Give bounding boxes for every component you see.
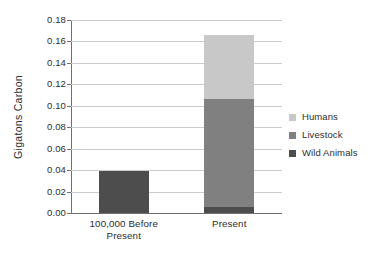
x-axis-category-labels: 100,000 BeforePresentPresent [71,218,282,252]
legend-swatch-icon [289,114,296,121]
bar-stack [204,20,254,213]
y-axis-tick-label: 0.04 [38,165,66,175]
y-axis-tick [67,41,71,42]
y-axis-tick-label: 0.08 [38,122,66,132]
bar-stack [99,20,149,213]
plot-area [71,20,282,214]
y-axis-tick [67,127,71,128]
legend-swatch-icon [289,132,296,139]
y-axis-tick-label: 0.00 [38,208,66,218]
x-axis-category-label: 100,000 BeforePresent [71,218,177,241]
y-axis-tick-label: 0.14 [38,58,66,68]
stacked-bar-chart: Gigatons Carbon 0.000.020.040.060.080.10… [0,0,370,270]
y-axis-tick-label: 0.06 [38,144,66,154]
y-axis-title-text: Gigatons Carbon [12,75,24,159]
x-axis-category-label-line: 100,000 Before [71,218,177,230]
x-axis-category-label: Present [177,218,283,230]
y-axis-tick-label: 0.02 [38,187,66,197]
y-axis-tick-label: 0.12 [38,79,66,89]
legend-item: Humans [289,110,338,124]
y-axis-line [71,20,72,214]
bar-segment-wild-animals [99,171,149,213]
y-axis-tick [67,84,71,85]
legend-swatch-icon [289,150,296,157]
y-axis-tick [67,20,71,21]
y-axis-tick [67,170,71,171]
x-axis-category-label-line: Present [177,218,283,230]
legend-label: Humans [302,112,338,122]
y-axis-tick-labels: 0.000.020.040.060.080.100.120.140.160.18 [36,20,66,214]
y-axis-tick [67,106,71,107]
y-axis-title: Gigatons Carbon [10,20,26,214]
chart-legend: HumansLivestockWild Animals [289,110,367,160]
legend-item: Wild Animals [289,146,358,160]
legend-item: Livestock [289,128,343,142]
bar-segment-livestock [204,99,254,206]
bar-segment-wild-animals [204,207,254,213]
x-axis-category-label-line: Present [71,230,177,242]
x-axis-line [71,213,282,214]
y-axis-tick-label: 0.16 [38,36,66,46]
y-axis-tick [67,63,71,64]
bar-segment-humans [204,35,254,99]
legend-label: Livestock [302,130,343,140]
y-axis-tick [67,213,71,214]
y-axis-tick-label: 0.18 [38,15,66,25]
y-axis-tick-label: 0.10 [38,101,66,111]
y-axis-tick [67,192,71,193]
y-axis-tick [67,149,71,150]
legend-label: Wild Animals [302,148,358,158]
